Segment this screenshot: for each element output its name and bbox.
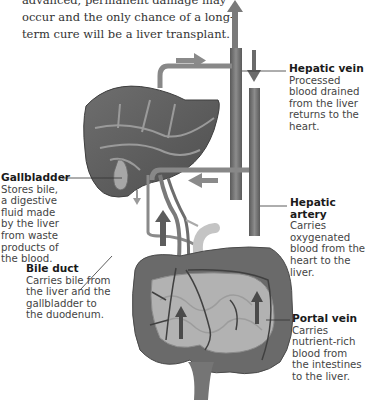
down-arrow-icon (247, 50, 261, 82)
label-bile-duct: Bile duct Carries bile from the liver an… (26, 263, 114, 321)
label-gallbladder: Gallbladder Stores bile, a digestive flu… (1, 172, 67, 265)
up-arrow-portal-icon (155, 210, 171, 246)
label-gallbladder-title: Gallbladder (1, 172, 67, 184)
small-down-arrow-icon (133, 190, 141, 205)
aorta (249, 88, 260, 236)
label-hepatic-artery-desc: Carries oxygenated blood from the heart … (290, 220, 365, 277)
label-hepatic-vein-title: Hepatic vein (289, 63, 367, 75)
label-hepatic-artery-title: Hepatic artery (290, 197, 367, 220)
label-hepatic-vein-desc: Processed blood drained from the liver r… (289, 75, 359, 132)
up-arrow-to-heart-icon (227, 0, 243, 52)
label-portal-vein-title: Portal vein (292, 313, 367, 325)
label-bile-duct-title: Bile duct (26, 263, 114, 275)
label-portal-vein: Portal vein Carries nutrient-rich blood … (292, 313, 367, 383)
label-hepatic-vein: Hepatic vein Processed blood drained fro… (289, 63, 367, 133)
label-hepatic-artery: Hepatic artery Carries oxygenated blood … (290, 197, 367, 278)
label-gallbladder-desc: Stores bile, a digestive fluid made by t… (1, 184, 59, 265)
vena-cava (230, 48, 242, 200)
left-arrow-icon (188, 173, 218, 188)
label-bile-duct-desc: Carries bile from the liver and the gall… (26, 275, 111, 321)
label-portal-vein-desc: Carries nutrient-rich blood from the int… (292, 325, 362, 382)
